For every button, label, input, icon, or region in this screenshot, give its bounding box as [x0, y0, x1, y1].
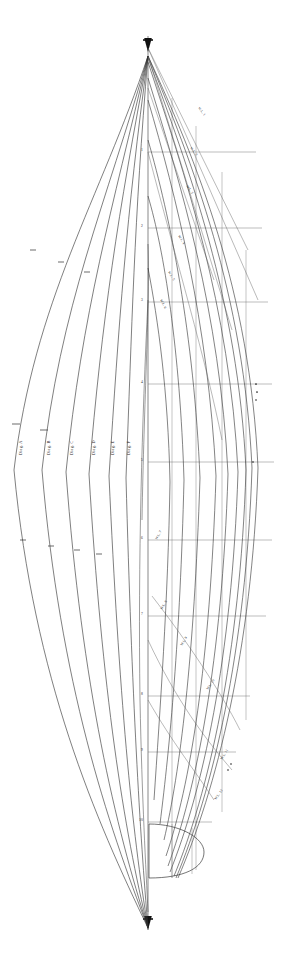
paper-background: [0, 0, 290, 966]
diagonal-label-c: Diag. C: [69, 441, 74, 455]
station-number: 6: [141, 536, 143, 540]
diagonal-label-a: Diag. A: [18, 440, 23, 455]
intersection-dot: [256, 391, 258, 393]
diagonal-label-d: Diag. D: [91, 440, 96, 455]
station-number: 9: [141, 748, 143, 752]
intersection-dot: [230, 763, 232, 765]
station-number: 2: [141, 224, 143, 228]
diagonal-label-e: Diag. E: [110, 441, 115, 455]
intersection-dot: [252, 461, 254, 463]
lines-plan-drawing: 1 2 3 4 5 6 7 8 9 10 Diag. A Diag. B Dia…: [0, 0, 290, 966]
intersection-dot: [255, 383, 257, 385]
intersection-dot: [227, 769, 229, 771]
station-number: 3: [141, 298, 143, 302]
station-number: 5: [141, 458, 143, 462]
diagonal-label-f: Diag. F: [126, 441, 131, 455]
station-number: 7: [141, 612, 143, 616]
station-number: 8: [141, 692, 143, 696]
intersection-dot: [255, 399, 257, 401]
station-number: 1: [141, 148, 143, 152]
station-number: 4: [141, 380, 143, 384]
station-number: 10: [139, 818, 143, 822]
hull-lines-svg: 1 2 3 4 5 6 7 8 9 10 Diag. A Diag. B Dia…: [0, 0, 290, 966]
diagonal-label-b: Diag. B: [46, 441, 51, 455]
